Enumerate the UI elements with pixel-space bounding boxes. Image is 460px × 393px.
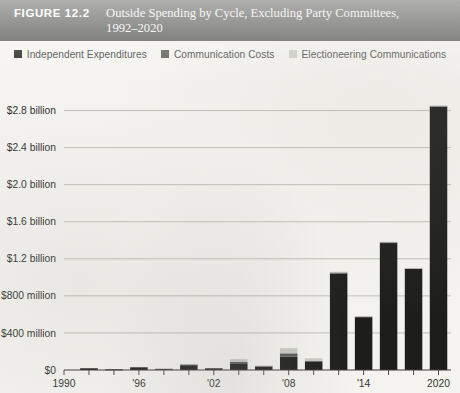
bar-segment — [130, 367, 147, 368]
y-axis-tick-label: $800 million — [1, 290, 56, 301]
legend-label-independent-expenditures: Independent Expenditures — [27, 49, 147, 60]
legend-item-communication-costs: Communication Costs — [161, 49, 275, 60]
y-axis-tick-label: $1.6 billion — [7, 216, 57, 227]
bar-segment — [430, 107, 447, 370]
figure-page: FIGURE 12.2 Outside Spending by Cycle, E… — [0, 0, 460, 393]
bar-segment — [355, 317, 372, 370]
bar-chart-svg: $0$400 million$800 million$1.2 billion$1… — [0, 64, 460, 393]
figure-number-label: FIGURE 12.2 — [14, 6, 90, 19]
legend-swatch-electioneering-communications — [289, 50, 297, 58]
chart-x-axis-labels: 1990'96'02'08'142020 — [53, 378, 451, 389]
chart-y-axis-labels: $0$400 million$800 million$1.2 billion$1… — [1, 105, 56, 375]
x-axis-tick-label: '08 — [282, 378, 296, 389]
x-axis-tick-label: 1990 — [53, 378, 76, 389]
legend-item-electioneering-communications: Electioneering Communications — [289, 49, 447, 60]
bar-segment — [280, 353, 297, 356]
chart-x-axis-ticks — [64, 370, 439, 375]
chart-legend: Independent Expenditures Communication C… — [0, 44, 460, 64]
bar-segment — [305, 362, 322, 370]
figure-title-line-1: Outside Spending by Cycle, Excluding Par… — [106, 6, 399, 20]
bar-segment — [430, 106, 447, 107]
x-axis-tick-label: 2020 — [427, 378, 450, 389]
y-axis-tick-label: $2.0 billion — [7, 179, 57, 190]
bar-segment — [255, 366, 272, 367]
bar-segment — [230, 362, 247, 364]
bar-segment — [230, 364, 247, 370]
bar-segment — [180, 365, 197, 370]
legend-swatch-communication-costs — [161, 50, 169, 58]
figure-title-bar: FIGURE 12.2 Outside Spending by Cycle, E… — [0, 0, 460, 41]
bar-segment — [355, 316, 372, 317]
legend-swatch-independent-expenditures — [14, 50, 22, 58]
bar-segment — [380, 242, 397, 243]
x-axis-tick-label: '02 — [207, 378, 221, 389]
y-axis-tick-label: $0 — [45, 365, 57, 376]
y-axis-tick-label: $1.2 billion — [7, 253, 57, 264]
chart-bars — [80, 106, 447, 371]
bar-segment — [305, 358, 322, 361]
legend-label-electioneering-communications: Electioneering Communications — [302, 49, 447, 60]
y-axis-tick-label: $400 million — [1, 328, 56, 339]
bar-segment — [280, 357, 297, 370]
bar-segment — [330, 274, 347, 370]
legend-label-communication-costs: Communication Costs — [174, 49, 275, 60]
bar-segment — [330, 272, 347, 273]
chart-plot-area: $0$400 million$800 million$1.2 billion$1… — [0, 64, 460, 393]
bar-segment — [230, 359, 247, 362]
bar-segment — [180, 365, 197, 366]
bar-segment — [280, 348, 297, 353]
x-axis-tick-label: '14 — [357, 378, 371, 389]
figure-title: Outside Spending by Cycle, Excluding Par… — [106, 6, 399, 35]
bar-segment — [380, 243, 397, 370]
bar-segment — [330, 273, 347, 274]
figure-title-line-2: 1992–2020 — [106, 21, 399, 36]
x-axis-tick-label: '96 — [132, 378, 146, 389]
legend-item-independent-expenditures: Independent Expenditures — [14, 49, 147, 60]
y-axis-tick-label: $2.4 billion — [7, 142, 57, 153]
bar-segment — [305, 361, 322, 362]
bar-segment — [405, 268, 422, 269]
bar-segment — [205, 368, 222, 369]
y-axis-tick-label: $2.8 billion — [7, 105, 57, 116]
bar-segment — [80, 368, 97, 369]
bar-segment — [405, 269, 422, 370]
